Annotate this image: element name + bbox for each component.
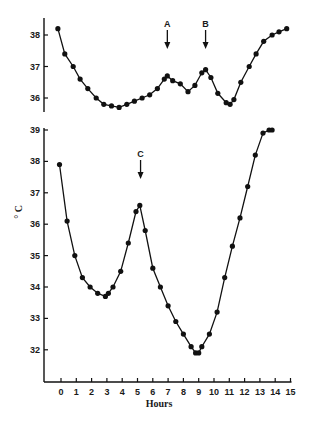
x-tick-label: 10	[209, 387, 219, 397]
x-tick-label: 7	[166, 387, 171, 397]
data-point	[222, 275, 227, 280]
x-tick-label: 14	[270, 387, 280, 397]
data-point	[215, 310, 220, 315]
x-tick-label: 2	[89, 387, 94, 397]
y-tick-label: 38	[30, 30, 40, 40]
data-point	[189, 344, 194, 349]
data-point	[170, 78, 175, 83]
bottom-x-ticks: 0123456789101112131415	[58, 378, 295, 397]
data-point	[192, 83, 197, 88]
data-point	[65, 219, 70, 224]
data-point	[85, 86, 90, 91]
x-tick-label: 13	[255, 387, 265, 397]
series-line	[60, 130, 273, 353]
x-tick-label: 12	[240, 387, 250, 397]
annotation-label-c: C	[137, 149, 144, 159]
arrow-head-icon	[203, 42, 209, 49]
y-tick-label: 37	[30, 188, 40, 198]
x-tick-label: 5	[135, 387, 140, 397]
data-point	[270, 32, 275, 37]
y-tick-label: 34	[30, 282, 40, 292]
annotation-label-b: B	[202, 19, 209, 29]
data-point	[247, 64, 252, 69]
top-y-ticks: 363738	[30, 30, 48, 103]
data-point	[237, 215, 242, 220]
data-point	[132, 99, 137, 104]
data-point	[94, 95, 99, 100]
x-tick-label: 3	[104, 387, 109, 397]
data-point	[143, 228, 148, 233]
data-point	[173, 319, 178, 324]
annotation-label-a: A	[164, 19, 171, 29]
data-point	[80, 275, 85, 280]
y-tick-label: 37	[30, 62, 40, 72]
data-point	[118, 269, 123, 274]
data-point	[196, 350, 201, 355]
x-tick-label: 4	[120, 387, 125, 397]
data-point	[231, 97, 236, 102]
y-tick-label: 32	[30, 345, 40, 355]
data-point	[147, 92, 152, 97]
data-point	[238, 80, 243, 85]
figure: 363738 AB 3233343536373839 0123456789101…	[0, 0, 311, 422]
data-point	[126, 240, 131, 245]
y-tick-label: 38	[30, 156, 40, 166]
data-point	[199, 344, 204, 349]
bottom-y-ticks: 3233343536373839	[30, 125, 48, 355]
data-point	[155, 86, 160, 91]
data-point	[57, 162, 62, 167]
bottom-annotations: C	[137, 149, 144, 179]
data-point	[208, 75, 213, 80]
data-point	[230, 244, 235, 249]
top-panel: 363738 AB	[30, 18, 289, 112]
data-point	[140, 95, 145, 100]
bottom-series	[57, 127, 275, 355]
data-point	[62, 51, 67, 56]
data-point	[106, 291, 111, 296]
top-series	[55, 26, 289, 110]
x-tick-label: 8	[181, 387, 186, 397]
data-point	[101, 102, 106, 107]
data-point	[88, 284, 93, 289]
data-point	[109, 103, 114, 108]
top-annotations: AB	[164, 19, 209, 49]
data-point	[178, 81, 183, 86]
data-point	[133, 209, 138, 214]
data-point	[158, 284, 163, 289]
data-point	[276, 29, 281, 34]
y-tick-label: 36	[30, 219, 40, 229]
data-point	[137, 203, 142, 208]
x-tick-label: 9	[196, 387, 201, 397]
data-point	[165, 73, 170, 78]
x-axis-label: Hours	[146, 398, 173, 409]
data-point	[166, 303, 171, 308]
x-tick-label: 11	[225, 387, 235, 397]
x-tick-label: 15	[285, 387, 295, 397]
data-point	[245, 184, 250, 189]
data-point	[207, 332, 212, 337]
data-point	[254, 51, 259, 56]
y-tick-label: 39	[30, 125, 40, 135]
data-point	[124, 102, 129, 107]
data-point	[110, 284, 115, 289]
data-point	[95, 291, 100, 296]
x-tick-label: 6	[150, 387, 155, 397]
bottom-panel: 3233343536373839 0123456789101112131415 …	[13, 125, 296, 409]
data-point	[150, 266, 155, 271]
y-tick-label: 35	[30, 251, 40, 261]
arrow-head-icon	[164, 42, 170, 49]
data-point	[270, 127, 275, 132]
x-tick-label: 0	[58, 387, 63, 397]
data-point	[55, 26, 60, 31]
data-point	[253, 153, 258, 158]
data-point	[260, 131, 265, 136]
series-line	[58, 29, 287, 108]
data-point	[181, 332, 186, 337]
data-point	[72, 253, 77, 258]
data-point	[78, 77, 83, 82]
y-axis-label: ° C	[13, 205, 24, 219]
data-point	[117, 105, 122, 110]
data-point	[203, 67, 208, 72]
y-tick-label: 33	[30, 313, 40, 323]
data-point	[185, 89, 190, 94]
